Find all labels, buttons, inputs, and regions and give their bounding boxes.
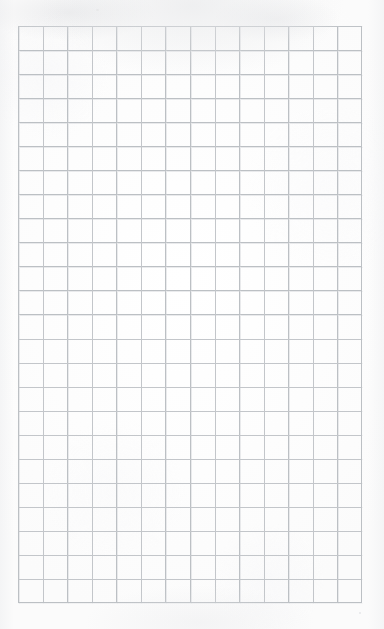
grid-border-right [361,26,362,603]
grid-ruling-ghost [19,27,363,604]
grid-border-bottom [18,602,362,603]
graph-paper-grid [18,26,362,603]
scanned-page [0,0,384,629]
